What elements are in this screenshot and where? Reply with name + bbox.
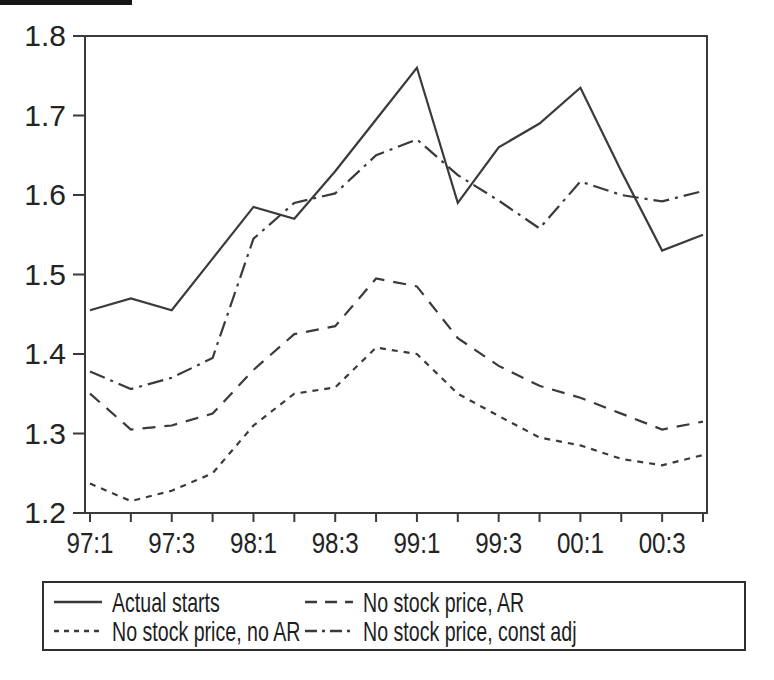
series-line-no-stock-price-ar [90,279,703,430]
legend-label: Actual starts [112,587,220,617]
y-axis-tick-label: 1.5 [24,258,66,291]
legend-item: Actual starts [54,588,266,616]
legend-line-sample-solid [54,599,102,605]
y-axis-tick-label: 1.6 [24,178,66,211]
legend-line-sample-dashed [305,599,353,605]
x-axis-tick-label: 99:3 [475,526,522,559]
legend-label: No stock price, AR [363,587,524,617]
x-axis-tick-label: 98:3 [312,526,359,559]
x-axis-tick-label: 00:1 [557,526,604,559]
series-line-actual-starts [90,68,703,310]
x-axis-tick-label: 97:3 [148,526,195,559]
legend: Actual starts No stock price, AR No stoc… [42,581,746,651]
legend-item: No stock price, const adj [305,617,668,645]
x-axis-tick-label: 98:1 [230,526,277,559]
legend-line-sample-dashdot [305,628,353,634]
legend-item: No stock price, AR [305,588,593,616]
legend-label: No stock price, const adj [363,616,577,646]
y-axis-tick-label: 1.4 [24,337,66,370]
y-axis-tick-label: 1.7 [24,99,66,132]
plot-border [85,36,707,513]
line-chart: 1.21.31.41.51.61.71.897:197:398:198:399:… [0,0,774,575]
y-axis-tick-label: 1.3 [24,417,66,450]
x-axis-tick-label: 00:3 [639,526,686,559]
legend-label: No stock price, no AR [112,616,300,646]
y-axis-tick-label: 1.2 [24,496,66,529]
x-axis-tick-label: 97:1 [67,526,114,559]
x-axis-tick-label: 99:1 [393,526,440,559]
y-axis-tick-label: 1.8 [24,19,66,52]
series-line-no-stock-price-no-ar [90,348,703,502]
legend-line-sample-dotted [54,628,102,634]
